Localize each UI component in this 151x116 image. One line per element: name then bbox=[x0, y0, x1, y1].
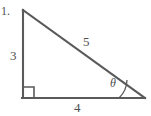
right-angle-square-icon bbox=[23, 87, 34, 98]
triangle-diagram bbox=[0, 0, 151, 116]
hypotenuse-label: 5 bbox=[83, 35, 90, 48]
horizontal-leg-label: 4 bbox=[74, 101, 81, 114]
figure-container: 1. 3 5 4 θ bbox=[0, 0, 151, 116]
vertical-leg-label: 3 bbox=[10, 49, 17, 62]
problem-number: 1. bbox=[1, 5, 10, 17]
angle-theta-label: θ bbox=[110, 77, 116, 89]
